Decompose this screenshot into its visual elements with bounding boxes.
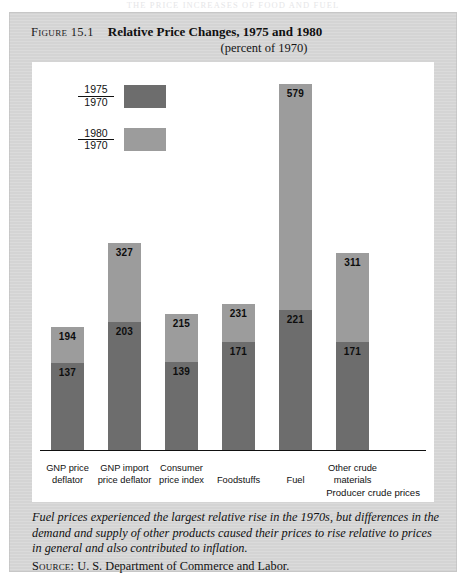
figure-number-label: Figure 15.1 xyxy=(31,25,94,40)
bar-group: 579221 xyxy=(279,84,312,450)
bar-value-1980: 579 xyxy=(279,88,312,99)
bar-segment-1975: 137 xyxy=(51,363,84,450)
category-label-line: materials xyxy=(323,475,382,486)
bar-segment-1980: 231 xyxy=(222,304,255,342)
category-label-line: Other crude xyxy=(323,463,382,474)
producer-crude-prices-label: Producer crude prices xyxy=(326,487,420,498)
category-label: GNP pricedeflator xyxy=(38,463,97,486)
bar-value-1980: 231 xyxy=(222,308,255,319)
plot-panel: 1975 1970 1980 1970 194137GNP pricedefla… xyxy=(32,62,434,502)
bar-stack: 311171 xyxy=(336,253,369,450)
figure-source: Source: U. S. Department of Commerce and… xyxy=(32,559,444,574)
running-head: THE PRICE INCREASES OF FOOD AND FUEL xyxy=(0,0,466,11)
bar-segment-1975: 221 xyxy=(279,310,312,450)
bar-stack: 579221 xyxy=(279,84,312,450)
category-label: Foodstuffs xyxy=(209,475,268,486)
bar-segment-1980: 194 xyxy=(51,327,84,363)
bar-group: 215139 xyxy=(165,314,198,450)
source-text: U. S. Department of Commerce and Labor. xyxy=(77,559,289,573)
bar-value-1975: 137 xyxy=(51,367,84,378)
figure-caption-block: Fuel prices experienced the largest rela… xyxy=(32,510,444,574)
source-label: Source: xyxy=(32,559,74,573)
figure-caption: Fuel prices experienced the largest rela… xyxy=(32,510,444,557)
title-line: Figure 15.1 Relative Price Changes, 1975… xyxy=(9,24,457,40)
bar-group: 194137 xyxy=(51,327,84,450)
figure-box: Figure 15.1 Relative Price Changes, 1975… xyxy=(9,12,457,572)
bar-group: 231171 xyxy=(222,304,255,450)
category-label-line: deflator xyxy=(38,475,97,486)
bar-segment-1975: 203 xyxy=(108,322,141,450)
bar-value-1980: 215 xyxy=(165,318,198,329)
bar-segment-1980: 311 xyxy=(336,253,369,341)
bar-segment-1980: 579 xyxy=(279,84,312,310)
category-label-line: GNP price xyxy=(38,463,97,474)
bar-value-1980: 194 xyxy=(51,331,84,342)
category-label: GNP importprice deflator xyxy=(95,463,154,486)
bar-group: 327203 xyxy=(108,243,141,450)
bar-segment-1975: 171 xyxy=(336,342,369,450)
page-title: Relative Price Changes, 1975 and 1980 xyxy=(108,24,322,40)
x-axis-line xyxy=(40,450,426,451)
bar-value-1980: 311 xyxy=(336,257,369,268)
bar-value-1975: 221 xyxy=(279,314,312,325)
chart-plot-area: 194137GNP pricedeflator327203GNP importp… xyxy=(32,62,434,502)
category-label-line: price index xyxy=(152,475,211,486)
bar-value-1975: 203 xyxy=(108,326,141,337)
category-label: Fuel xyxy=(266,475,325,486)
category-label: Other crudematerials xyxy=(323,463,382,486)
bar-stack: 327203 xyxy=(108,243,141,450)
figure-page: THE PRICE INCREASES OF FOOD AND FUEL Fig… xyxy=(0,0,466,582)
bar-stack: 194137 xyxy=(51,327,84,450)
category-label-line: GNP import xyxy=(95,463,154,474)
category-label-line: Fuel xyxy=(266,475,325,486)
bar-stack: 215139 xyxy=(165,314,198,450)
bar-segment-1975: 171 xyxy=(222,342,255,450)
bar-segment-1975: 139 xyxy=(165,362,198,450)
bar-segment-1980: 327 xyxy=(108,243,141,321)
bar-value-1975: 171 xyxy=(336,346,369,357)
bar-value-1980: 327 xyxy=(108,247,141,258)
bar-segment-1980: 215 xyxy=(165,314,198,362)
figure-subtitle: (percent of 1970) xyxy=(9,41,457,56)
bar-group: 311171 xyxy=(336,253,369,450)
category-label-line: Foodstuffs xyxy=(209,475,268,486)
category-label-line: Consumer xyxy=(152,463,211,474)
figure-title-block: Figure 15.1 Relative Price Changes, 1975… xyxy=(9,24,457,56)
bar-value-1975: 171 xyxy=(222,346,255,357)
bar-value-1975: 139 xyxy=(165,366,198,377)
bar-stack: 231171 xyxy=(222,304,255,450)
category-label: Consumerprice index xyxy=(152,463,211,486)
category-label-line: price deflator xyxy=(95,475,154,486)
